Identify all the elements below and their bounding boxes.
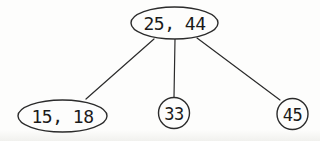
tree-node-label-root: 25, 44 [143, 13, 205, 34]
tree-node-label-child-left: 15, 18 [31, 106, 93, 127]
edge-root-child-right [197, 38, 280, 100]
edge-root-child-left [86, 39, 154, 99]
tree-diagram: 25, 4415, 183345 [0, 0, 319, 141]
edge-root-child-middle [174, 39, 175, 97]
tree-node-label-child-middle: 33 [164, 104, 183, 124]
tree-diagram-canvas: 25, 4415, 183345 [0, 0, 319, 141]
tree-node-label-child-right: 45 [283, 105, 302, 125]
